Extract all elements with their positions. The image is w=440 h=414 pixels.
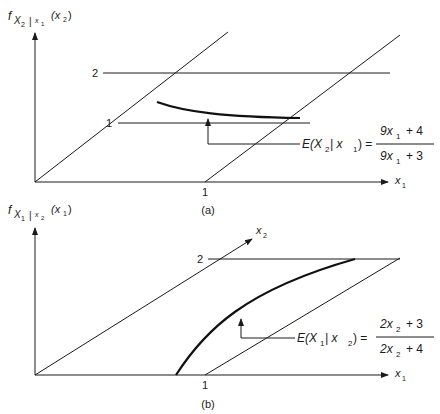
eq-den: 9x	[380, 149, 394, 163]
eq-lhs-close: ) =	[353, 331, 367, 345]
tick-x1: 1	[202, 186, 208, 198]
conditional-mean-curve	[176, 259, 355, 375]
caption-b: (b)	[201, 398, 214, 410]
ylabel-close: )	[68, 203, 72, 215]
ylabel-arg-sub: 1	[63, 210, 67, 217]
tick-depth-2: 2	[197, 253, 203, 265]
eq-den-rest: + 4	[406, 342, 423, 356]
depth-label-sub: 2	[263, 232, 267, 239]
ylabel-arg: (x	[51, 203, 61, 215]
ylabel-arg-sub: 2	[63, 16, 67, 23]
ylabel-bar: |	[29, 210, 32, 221]
ylabel-sub2: 1	[21, 215, 25, 222]
eq-num: 2x	[379, 317, 394, 331]
ylabel-close: )	[68, 9, 72, 21]
tick-x1: 1	[202, 379, 208, 391]
depth-axis-left	[35, 32, 228, 182]
ylabel-arg: (x	[51, 9, 61, 21]
pointer-arrow	[241, 319, 295, 338]
panel-a-ylabel: f X 2 | x 1 (x 2 )	[8, 9, 72, 28]
ylabel-cond-sub: 1	[41, 21, 45, 27]
eq-lhs-close: ) =	[358, 137, 372, 151]
equation-b: E(X 1 | x 2 ) = 2x 2 + 3 2x 2 + 4	[297, 317, 434, 359]
conditional-mean-curve	[157, 102, 300, 118]
panel-b: f X 1 | x 2 (x 1 ) x 1 x 2 2 1 E(X 1	[8, 203, 434, 410]
eq-num-rest: + 3	[406, 317, 423, 331]
eq-num-rest: + 4	[406, 124, 423, 138]
tick-depth-2: 2	[92, 67, 98, 79]
xlabel: x	[394, 367, 401, 379]
panel-b-ylabel: f X 1 | x 2 (x 1 )	[8, 203, 72, 222]
ylabel-bar: |	[29, 16, 32, 27]
panel-a: f X 2 | x 1 (x 2 ) x 1 2 1 1	[8, 9, 434, 216]
tick-depth-1: 1	[106, 117, 112, 129]
eq-lhs: E(X	[302, 137, 323, 151]
ylabel-cond: x	[34, 17, 39, 24]
eq-num-sub: 1	[396, 132, 401, 141]
xlabel-sub: 1	[402, 182, 406, 189]
eq-den-sub: 2	[396, 350, 401, 359]
caption-a: (a)	[201, 204, 214, 216]
eq-lhs: E(X	[297, 331, 318, 345]
eq-den-rest: + 3	[406, 149, 423, 163]
xlabel-sub: 1	[402, 375, 406, 382]
eq-den-sub: 1	[396, 157, 401, 166]
eq-num-sub: 2	[396, 325, 401, 334]
eq-num: 9x	[380, 124, 394, 138]
ylabel-f: f	[8, 203, 13, 217]
ylabel-sub: X	[13, 15, 21, 26]
xlabel: x	[394, 174, 401, 186]
ylabel-sub: X	[13, 209, 21, 220]
ylabel-cond-sub: 2	[41, 215, 45, 221]
eq-den: 2x	[379, 342, 394, 356]
depth-axis-right	[205, 35, 400, 182]
ylabel-f: f	[8, 9, 13, 23]
eq-lhs-bar: | x	[325, 331, 338, 345]
equation-a: E(X 2 | x 1 ) = 9x 1 + 4 9x 1 + 3	[302, 124, 434, 166]
depth-label: x	[255, 224, 262, 236]
ylabel-sub2: 2	[21, 21, 25, 28]
eq-lhs-bar: | x	[330, 137, 343, 151]
ylabel-cond: x	[34, 211, 39, 218]
